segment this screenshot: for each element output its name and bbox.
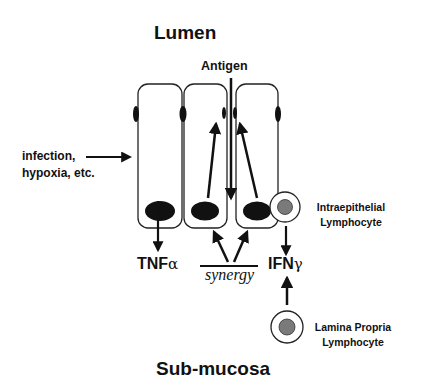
submucosa-label: Sub-mucosa [156, 358, 270, 380]
nucleus-icon [191, 202, 219, 221]
lpl-label-line1: Lamina Propria [308, 320, 398, 335]
stimulus-label-line2: hypoxia, etc. [22, 165, 95, 182]
tnf-alpha-label: TNFα [137, 255, 178, 273]
lpl-label: Lamina Propria Lymphocyte [308, 320, 398, 350]
ifn-base: IFN [268, 255, 294, 272]
tnf-greek: α [168, 255, 178, 273]
tnf-base: TNF [137, 255, 168, 272]
epithelial-cell-1 [138, 84, 182, 228]
nucleus-icon [145, 201, 175, 221]
stimulus-label-line1: infection, [22, 148, 75, 165]
antigen-label: Antigen [201, 58, 248, 75]
nucleus-icon [243, 202, 271, 221]
synergy-label: synergy [205, 266, 254, 284]
ifn-greek: γ [294, 255, 303, 273]
iel-label-line1: Intraepithelial [306, 200, 396, 215]
iel-label: Intraepithelial Lymphocyte [306, 200, 396, 230]
synergy-arrow-left [214, 232, 228, 262]
lpl-label-line2: Lymphocyte [308, 335, 398, 350]
intraepithelial-lymphocyte [270, 192, 300, 222]
lamina-propria-lymphocyte [271, 311, 303, 343]
ifn-gamma-label: IFNγ [268, 255, 303, 273]
iel-label-line2: Lymphocyte [306, 215, 396, 230]
epithelial-cell-2 [184, 84, 227, 228]
synergy-arrow-right [234, 232, 247, 262]
lumen-label: Lumen [154, 22, 216, 44]
